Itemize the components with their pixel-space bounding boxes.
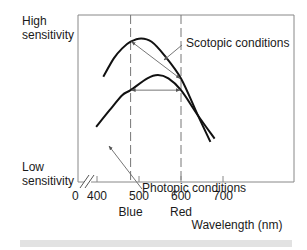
bottom-bar [20,240,292,247]
photopic-conditions-curve [96,75,214,138]
scotopic-difference-arrow [132,42,180,79]
y-label-low-line1: Low [22,160,44,174]
sensitivity-chart: High sensitivity Low sensitivity Scotopi… [0,0,307,250]
scotopic-leader-line [164,45,182,60]
reference-lines [131,15,181,182]
y-label-high-line1: High [22,14,47,28]
color-labels: BlueRed [119,205,192,219]
photopic-leader-line [109,146,142,189]
x-tick-label-400: 400 [87,189,107,203]
color-label-red: Red [170,205,192,219]
x-tick-label-500: 500 [129,189,149,203]
scotopic-label: Scotopic conditions [186,36,289,50]
y-label-high-line2: sensitivity [22,28,74,42]
x-tick-label-700: 700 [213,189,233,203]
y-label-low-line2: sensitivity [22,174,74,188]
color-label-blue: Blue [119,205,143,219]
x-origin-label: 0 [72,189,79,203]
x-axis-label: Wavelength (nm) [192,218,283,232]
x-tick-label-600: 600 [171,189,191,203]
